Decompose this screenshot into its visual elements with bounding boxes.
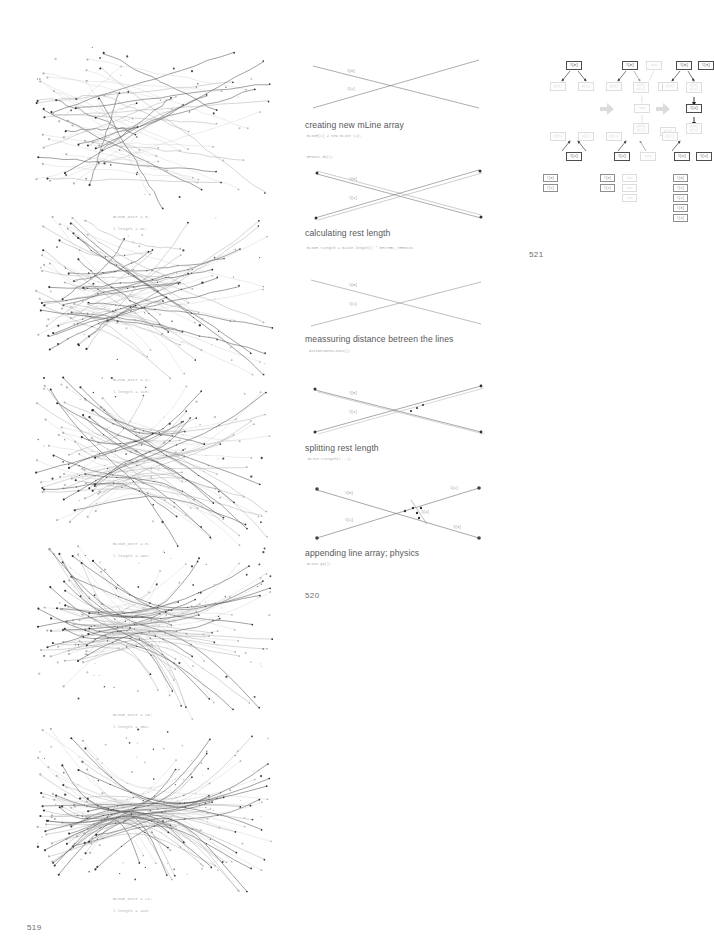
step-precode-2: mPoint.dx();: [307, 155, 333, 159]
vignette-5-label-1: l[1]: [345, 518, 353, 522]
vignette-4: l[0] l[1]: [305, 374, 485, 436]
diagram-node-s2-child-bot-0: p[0] p[1]: [633, 123, 649, 134]
list-middle-item-1: l[1]: [600, 184, 615, 192]
list-after-item-3: l[3]: [673, 204, 688, 212]
diagram-node-s2-root-bot: l[1]: [614, 152, 630, 161]
diagram-node-s2-ghost-top: new: [646, 61, 662, 70]
vignette-1-label-0: l[0]: [347, 69, 355, 73]
list-middle-ghost-0: new: [622, 174, 637, 182]
vignette-5-label-4: l[4]: [421, 510, 429, 514]
diagram-node-s2-child-top-1: p[0] p[1]: [633, 82, 649, 93]
vignette-3-label-0: l[0]: [349, 283, 357, 287]
diagram-node-s2-child-bot-0-line: p[0] p[1]: [637, 125, 645, 132]
vignette-5: l[0] l[1] l[2] l[3] l[4]: [305, 478, 485, 546]
plot-caption-4-line1: mLINE_DIST = 16;: [113, 713, 153, 717]
node-diagram: l[0] p[0] p[1] p[0] p[1] l[1] l[0] new p…: [528, 55, 699, 175]
folio-left: 519: [27, 923, 42, 932]
diagram-node-s2-child-top-0: p[0]: [606, 82, 622, 91]
diagram-node-s3-root-bot: l[1]: [674, 152, 690, 161]
list-before-item-0: l[0]: [543, 174, 558, 182]
vignette-4-label-0: l[0]: [349, 391, 357, 395]
diagram-node-s3-center: l[4]: [686, 104, 702, 113]
plot-panel-2: mLINE_DIST = 4; l.length = 115;: [28, 205, 278, 395]
plot-caption-5: mLINE_DIST = 24; l.length = 443;: [98, 890, 153, 920]
diagram-node-s2-child-top-1-line: p[0] p[1]: [637, 84, 645, 91]
diagram-node-s3-child-top-0: p[0]: [662, 82, 678, 91]
list-middle: l[0] l[1] new new new: [600, 174, 637, 202]
diagram-node-s3-child-top-1: p[0] p[1]: [686, 82, 702, 93]
step-heading-3: meassuring distance betreen the lines: [305, 334, 453, 344]
plot-graphic-4: [28, 540, 278, 730]
diagram-node-s3-child-top-1-line: p[0] p[1]: [690, 84, 698, 91]
diagram-node-s2-ghost-bot: new: [640, 152, 656, 161]
diagram-node-s3-sibling-bot: l[2]: [696, 152, 712, 161]
list-after-item-1: l[1]: [673, 184, 688, 192]
diagram-node-s3-child-bot-0: p[0] p[1]: [686, 123, 702, 134]
list-before: l[0] l[1]: [543, 174, 558, 192]
step-code-2: mLINE.rLength = mLine.length() * RESTREL…: [307, 246, 413, 250]
vignette-1-label-1: l[1]: [347, 87, 355, 91]
plot-caption-5-line2: l.length = 443;: [113, 909, 150, 913]
vignette-2: l[0] l[1]: [305, 160, 485, 222]
plot-panel-3: mLINE_DIST = 8; l.length = 198;: [28, 370, 278, 560]
vignette-5-label-0: l[0]: [345, 491, 353, 495]
diagram-node-s2-root-top: l[0]: [622, 61, 638, 70]
plot-graphic-1: [28, 40, 278, 230]
diagram-node-s1-child-bot-0: p[0]: [550, 132, 566, 141]
list-after: l[0] l[1] l[2] l[3] l[4]: [673, 174, 688, 222]
diagram-node-s1-child-top-1: p[1]: [578, 82, 594, 91]
vignette-4-label-1: l[1]: [349, 410, 357, 414]
diagram-node-s1-child-top-0: p[0]: [550, 82, 566, 91]
plot-graphic-5: [28, 720, 278, 915]
list-after-item-4: l[4]: [673, 214, 688, 222]
step-code-1: mLINE[i] = new mLine (2);: [307, 134, 362, 138]
vignette-3-label-1: l[1]: [349, 302, 357, 306]
step-heading-1: creating new mLine array: [305, 120, 404, 130]
step-heading-2: calculating rest length: [305, 228, 390, 238]
vignette-3: l[0] l[1]: [305, 268, 485, 330]
plot-caption-5-line1: mLINE_DIST = 24;: [113, 897, 153, 901]
step-code-3: distBetweenLines();: [309, 349, 351, 353]
diagram-node-s1-child-bot-1: p[1]: [578, 132, 594, 141]
plot-panel-4: mLINE_DIST = 16; l.length = 304;: [28, 540, 278, 730]
diagram-node-s1-root-top: l[0]: [566, 61, 582, 70]
diagram-node-s1-root-bot: l[1]: [566, 152, 582, 161]
list-middle-ghost-2: new: [622, 194, 637, 202]
step-heading-4: splitting rest length: [305, 443, 379, 453]
folio-middle: 520: [305, 591, 320, 600]
diagram-node-s3-child-bot-0-line: p[0] p[1]: [690, 125, 698, 132]
list-after-item-2: l[2]: [673, 194, 688, 202]
list-before-item-1: l[1]: [543, 184, 558, 192]
step-heading-5: appending line array; physics: [305, 548, 419, 558]
vignette-5-label-3: l[3]: [453, 525, 461, 529]
plot-panel-1: mLINE_DIST = 3; l.length = 81;: [28, 40, 278, 230]
diagram-node-s3-sibling-top: l[3]: [698, 61, 714, 70]
list-middle-ghost-1: new: [622, 184, 637, 192]
plot-panel-5: mLINE_DIST = 24; l.length = 443;: [28, 720, 278, 915]
step-code-4: mLine.rLength(r...);: [308, 457, 352, 461]
diagram-node-s3-child-bot-1: p[1]: [662, 132, 678, 141]
diagram-node-s2-child-bot-1: p[1]: [606, 132, 622, 141]
vignette-3-graphic: [305, 268, 485, 330]
plot-graphic-2: [28, 205, 278, 395]
list-after-item-0: l[0]: [673, 174, 688, 182]
vignette-2-label-0: l[0]: [349, 177, 357, 181]
vignette-1-graphic: [305, 50, 485, 112]
list-middle-item-0: l[0]: [600, 174, 615, 182]
folio-right: 521: [529, 250, 544, 259]
diagram-node-s3-root-top: l[0]: [676, 61, 692, 70]
vignette-4-graphic: [305, 374, 485, 436]
diagram-node-s2-middle-ghost: new: [634, 104, 650, 113]
vignette-2-label-1: l[1]: [349, 196, 357, 200]
step-code-5: mLine.go();: [307, 562, 331, 566]
vignette-1: l[0] l[1]: [305, 50, 485, 112]
vignette-5-label-2: l[2]: [450, 486, 458, 490]
vignette-2-graphic: [305, 160, 485, 222]
plot-graphic-3: [28, 370, 278, 560]
